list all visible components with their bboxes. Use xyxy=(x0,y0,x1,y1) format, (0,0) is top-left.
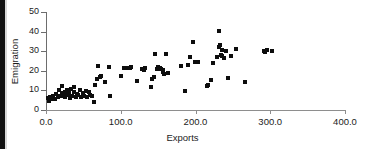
y-axis-title: Emigration xyxy=(9,26,20,98)
scatter-point xyxy=(222,56,226,60)
scatter-point xyxy=(149,85,153,89)
scatter-point xyxy=(92,100,96,104)
scatter-point xyxy=(166,71,170,75)
scatter-point xyxy=(220,48,224,52)
scatter-point xyxy=(129,65,133,69)
scatter-point xyxy=(191,40,195,44)
scatter-point xyxy=(186,63,190,67)
scatter-point xyxy=(183,89,187,93)
scatter-point xyxy=(99,74,103,78)
scatter-point xyxy=(218,43,222,47)
scatter-point xyxy=(152,75,156,79)
scatter-point xyxy=(209,78,213,82)
scatter-point xyxy=(143,66,147,70)
scatter-point xyxy=(135,79,139,83)
scatter-point xyxy=(72,85,76,89)
scatter-point xyxy=(196,60,200,64)
scatter-point xyxy=(90,94,94,98)
scatter-point xyxy=(93,83,97,87)
scatter-point xyxy=(153,52,157,56)
scatter-point xyxy=(206,83,210,87)
scatter-point xyxy=(234,47,238,51)
scatter-point xyxy=(96,64,100,68)
scatter-point xyxy=(224,49,228,53)
scatter-point xyxy=(164,52,168,56)
scatter-point xyxy=(217,29,221,33)
scatter-point xyxy=(265,48,269,52)
scatter-point xyxy=(60,84,64,88)
plot-data-area xyxy=(0,0,365,149)
scatter-point xyxy=(226,76,230,80)
scatter-plot-figure: 01020304050 0.0100.0200.0300.0400.0 Emig… xyxy=(0,0,365,149)
scatter-point xyxy=(243,80,247,84)
scatter-point xyxy=(188,55,192,59)
x-axis-title: Exports xyxy=(0,132,365,143)
scatter-point xyxy=(270,49,274,53)
scatter-point xyxy=(211,61,215,65)
scatter-point xyxy=(108,94,112,98)
scatter-point xyxy=(107,65,111,69)
scatter-point xyxy=(119,74,123,78)
scatter-point xyxy=(103,80,107,84)
scatter-point xyxy=(179,64,183,68)
scatter-point xyxy=(229,54,233,58)
